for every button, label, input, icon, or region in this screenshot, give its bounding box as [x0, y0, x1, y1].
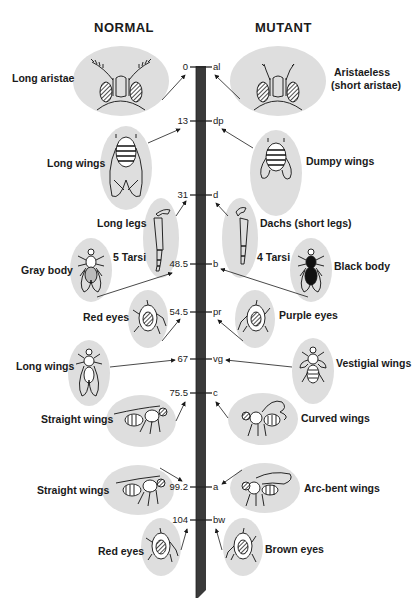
normal-trait-label: Red eyes [83, 311, 129, 323]
fly-eye-brown-icon [226, 528, 256, 562]
locus-position: 54.5 [148, 306, 188, 317]
chromosome-bar [196, 66, 206, 598]
fly-head-short-aristae-icon [254, 64, 302, 110]
fly-straight-wings-side-icon [114, 406, 167, 434]
locus-symbol: pr [213, 306, 221, 317]
mutant-trait-label: Dumpy wings [306, 155, 374, 167]
fly-eye-red-2-icon [146, 528, 178, 562]
mutant-trait-label: Brown eyes [265, 543, 324, 555]
mutant-trait-label-2: (short aristae) [331, 79, 401, 91]
locus-position: 0 [148, 61, 188, 72]
mutant-trait-label: Purple eyes [279, 309, 338, 321]
locus-position: 48.5 [148, 258, 188, 269]
locus-symbol: dp [213, 115, 224, 126]
locus-symbol: vg [213, 353, 223, 364]
fly-long-wings-icon [110, 134, 143, 197]
normal-trait-label: Red eyes [98, 545, 144, 557]
fly-vestigial-wings-icon [300, 347, 326, 383]
mutant-trait-label: Aristaeless [334, 66, 390, 78]
fly-eye-purple-icon [238, 300, 270, 332]
locus-symbol: al [213, 61, 220, 72]
mutant-trait-label: 4 Tarsi [257, 251, 290, 263]
normal-trait-label: Long wings [16, 360, 74, 372]
locus-position: 31 [148, 189, 188, 200]
fly-arc-bent-wings-icon [242, 473, 291, 506]
normal-trait-label: 5 Tarsi [113, 251, 146, 263]
normal-trait-label: Straight wings [37, 484, 109, 496]
normal-trait-label: Straight wings [41, 413, 113, 425]
normal-trait-label: Long legs [97, 217, 147, 229]
mutant-trait-label: Vestigial wings [336, 357, 411, 369]
locus-position: 67 [148, 353, 188, 364]
normal-trait-label: Long wings [47, 157, 105, 169]
fly-gray-body-icon [78, 249, 104, 292]
locus-position: 104 [148, 514, 188, 525]
locus-symbol: d [213, 189, 218, 200]
locus-symbol: c [213, 387, 218, 398]
mutant-trait-label: Curved wings [301, 412, 370, 424]
locus-symbol: b [213, 258, 218, 269]
locus-position: 75.5 [148, 387, 188, 398]
locus-symbol: bw [213, 514, 225, 525]
locus-position: 13 [148, 115, 188, 126]
locus-symbol: a [213, 481, 218, 492]
mutant-trait-label: Arc-bent wings [304, 482, 380, 494]
fly-long-wings-top-icon [76, 349, 102, 396]
fly-curved-wings-icon [242, 401, 286, 436]
normal-trait-label: Gray body [21, 264, 73, 276]
fly-dumpy-wings-icon [261, 138, 292, 179]
fly-black-body-icon [298, 249, 324, 292]
mutant-trait-label: Black body [334, 260, 390, 272]
fly-leg-short-icon [236, 208, 248, 265]
locus-position: 99.2 [148, 481, 188, 492]
mutant-trait-label: Dachs (short legs) [260, 217, 352, 229]
normal-trait-label: Long aristae [12, 72, 74, 84]
fly-head-long-aristae-icon [91, 59, 151, 110]
